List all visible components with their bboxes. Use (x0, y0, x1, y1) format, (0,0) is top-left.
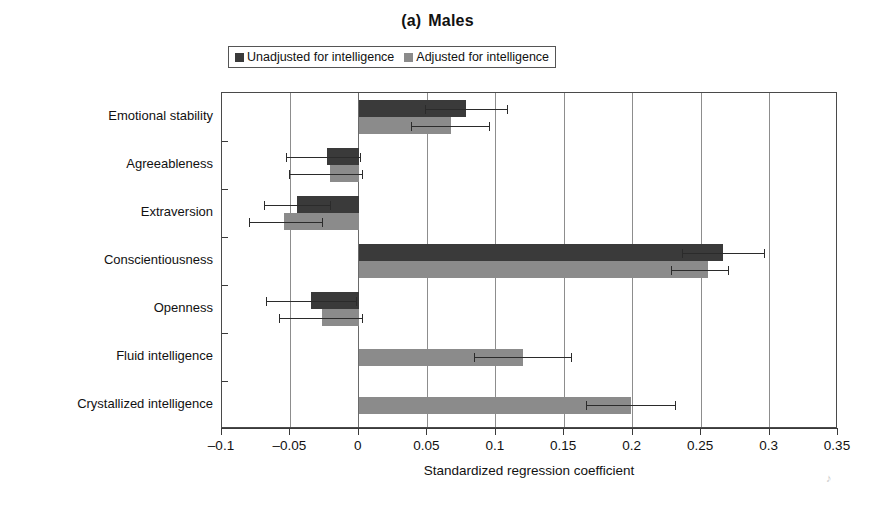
x-tick-0.35 (837, 428, 838, 435)
x-tick--0.05 (289, 428, 290, 435)
error-bar-cap-low (474, 353, 475, 362)
error-bar-line (289, 174, 362, 175)
error-bar-line (682, 253, 764, 254)
y-axis-label-openness: Openness (3, 301, 213, 315)
error-bar-cap-high (764, 249, 765, 258)
legend-item-adjusted: Adjusted for intelligence (404, 50, 549, 64)
legend-item-unadjusted: Unadjusted for intelligence (235, 50, 394, 64)
error-bar-cap-high (728, 266, 729, 275)
legend-swatch-adjusted (404, 53, 413, 62)
y-tick-6 (222, 381, 228, 382)
x-tick-0.05 (426, 428, 427, 435)
error-bar-line (266, 301, 356, 302)
x-tick-label-0.05: 0.05 (396, 438, 456, 453)
x-tick-label--0.1: –0.1 (191, 438, 251, 453)
error-bar-line (586, 405, 675, 406)
legend-swatch-unadjusted (235, 53, 244, 62)
x-tick-label-0: 0 (328, 438, 388, 453)
chart-title: (a)Males (0, 12, 875, 30)
y-axis-category-labels: Emotional stabilityAgreeablenessExtraver… (0, 92, 213, 428)
error-bar-cap-high (356, 297, 357, 306)
x-tick-0 (358, 428, 359, 435)
y-axis-label-agreeableness: Agreeableness (3, 157, 213, 171)
y-axis-label-fluid-intelligence: Fluid intelligence (3, 349, 213, 363)
x-tick-0.25 (700, 428, 701, 435)
x-tick-label--0.05: –0.05 (259, 438, 319, 453)
y-tick-1 (222, 141, 228, 142)
x-tick-0.3 (769, 428, 770, 435)
bar-conscientiousness-adjusted (359, 261, 708, 278)
error-bar-cap-high (675, 401, 676, 410)
error-bar-line (425, 109, 507, 110)
error-bar-line (474, 357, 571, 358)
error-bar-cap-high (330, 201, 331, 210)
y-tick-2 (222, 189, 228, 190)
error-bar-cap-low (425, 105, 426, 114)
chart-legend: Unadjusted for intelligence Adjusted for… (228, 46, 556, 68)
chart-title-number: (a) (401, 12, 421, 29)
error-bar-cap-low (266, 297, 267, 306)
error-bar-cap-low (586, 401, 587, 410)
x-tick-0.2 (632, 428, 633, 435)
error-bar-cap-high (362, 170, 363, 179)
bar-conscientiousness-unadjusted (359, 244, 723, 261)
error-bar-cap-low (286, 153, 287, 162)
error-bar-cap-high (362, 314, 363, 323)
scan-artifact: ♪ (826, 472, 832, 484)
chart-title-text: Males (428, 12, 473, 29)
x-tick-label-0.35: 0.35 (807, 438, 867, 453)
plot-area (221, 92, 837, 428)
error-bar-line (279, 318, 361, 319)
x-tick--0.1 (221, 428, 222, 435)
y-axis-label-extraversion: Extraversion (3, 205, 213, 219)
error-bar-cap-low (264, 201, 265, 210)
error-bar-cap-high (489, 122, 490, 131)
x-tick-label-0.3: 0.3 (739, 438, 799, 453)
y-axis-label-crystallized-intelligence: Crystallized intelligence (3, 397, 213, 411)
legend-label-adjusted: Adjusted for intelligence (416, 50, 549, 64)
gridline-x-0.3 (769, 93, 770, 427)
error-bar-cap-low (249, 218, 250, 227)
legend-label-unadjusted: Unadjusted for intelligence (247, 50, 394, 64)
error-bar-cap-high (360, 153, 361, 162)
x-tick-label-0.15: 0.15 (533, 438, 593, 453)
error-bar-line (264, 205, 330, 206)
error-bar-cap-low (289, 170, 290, 179)
x-tick-0.15 (563, 428, 564, 435)
x-axis-label: Standardized regression coefficient (221, 463, 837, 478)
error-bar-cap-high (507, 105, 508, 114)
x-tick-label-0.2: 0.2 (602, 438, 662, 453)
x-tick-label-0.1: 0.1 (465, 438, 525, 453)
error-bar-cap-high (571, 353, 572, 362)
y-axis-label-conscientiousness: Conscientiousness (3, 253, 213, 267)
y-tick-4 (222, 285, 228, 286)
error-bar-line (671, 270, 728, 271)
y-tick-5 (222, 333, 228, 334)
error-bar-cap-low (279, 314, 280, 323)
error-bar-cap-low (682, 249, 683, 258)
x-tick-label-0.25: 0.25 (670, 438, 730, 453)
error-bar-line (286, 157, 360, 158)
error-bar-cap-high (322, 218, 323, 227)
error-bar-cap-low (671, 266, 672, 275)
y-tick-3 (222, 237, 228, 238)
x-axis-line (221, 428, 837, 429)
error-bar-cap-low (411, 122, 412, 131)
error-bar-line (411, 126, 489, 127)
y-axis-label-emotional-stability: Emotional stability (3, 109, 213, 123)
error-bar-line (249, 222, 322, 223)
gridline-x--0.05 (290, 93, 291, 427)
x-tick-0.1 (495, 428, 496, 435)
chart-figure: (a)Males Unadjusted for intelligence Adj… (0, 0, 875, 514)
